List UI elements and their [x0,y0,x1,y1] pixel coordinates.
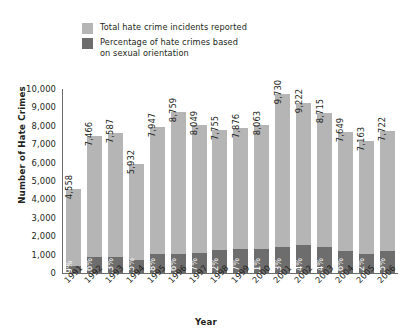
bar-group[interactable]: 7,94712.8% [150,89,165,273]
bar-group[interactable]: 7,75516.2% [212,89,227,273]
legend-label-percentage: Percentage of hate crimes based on sexua… [100,37,238,58]
x-axis-tick-cell: 2000 [253,275,268,315]
bar-value-label: 7,587 [105,119,115,143]
x-axis-tick-cell: 2003 [316,275,331,315]
bar-total-incidents[interactable]: 7,755 [212,130,227,273]
bar-value-label: 4,558 [64,175,74,199]
bar-group[interactable]: 8,75911.6% [171,89,186,273]
bar-value-label: 7,947 [147,113,157,137]
legend-label-total: Total hate crime incidents reported [100,22,247,33]
bar-total-incidents[interactable]: 8,063 [254,125,269,273]
bar-total-incidents[interactable]: 8,759 [171,112,186,273]
bar-total-incidents[interactable]: 9,730 [275,94,290,273]
bar-total-incidents[interactable]: 8,049 [192,125,207,273]
y-axis-tick: 5,000 [0,176,56,186]
bar-group[interactable]: 7,87616.7% [233,89,248,273]
bar-value-label: 9,222 [294,89,304,113]
bar-value-label: 7,876 [231,114,241,138]
chart-legend: Total hate crime incidents reported Perc… [82,22,247,58]
bar-value-label: 5,932 [126,150,136,174]
y-axis-tick-labels: 10,0009,0008,0007,0006,0005,0004,0003,00… [0,82,56,280]
x-axis-tick-cell: 1998 [211,275,226,315]
plot-area: 4,5588.9%7,46611.6%7,58711.3%5,93211.5%7… [62,89,398,274]
x-axis-tick-cell: 1991 [65,275,80,315]
bar-total-incidents[interactable]: 7,587 [108,133,123,273]
bar-group[interactable]: 7,46611.6% [87,89,102,273]
x-axis-tick-cell: 2004 [337,275,352,315]
x-axis-tick-cell: 2001 [274,275,289,315]
x-axis-tick-cell: 1997 [191,275,206,315]
y-axis-tick: 4,000 [0,194,56,204]
bar-group[interactable]: 8,06316.1% [254,89,269,273]
bar-total-incidents[interactable]: 7,649 [338,132,353,273]
bar-group[interactable]: 7,16314.2% [359,89,374,273]
y-axis-tick: 7,000 [0,139,56,149]
bar-value-label: 7,649 [335,118,345,142]
bar-group[interactable]: 8,04913.7% [192,89,207,273]
x-axis-tick-cell: 2005 [358,275,373,315]
x-axis-tick-cell: 1996 [170,275,185,315]
legend-item-total: Total hate crime incidents reported [82,22,247,34]
bar-value-label: 7,163 [356,127,366,151]
x-axis-title: Year [0,317,412,327]
bar-total-incidents[interactable]: 9,222 [296,103,311,273]
hate-crimes-bar-chart: Total hate crime incidents reported Perc… [0,0,412,333]
y-axis-tick: 9,000 [0,102,56,112]
bar-group[interactable]: 5,93211.5% [129,89,144,273]
y-axis-tick: 8,000 [0,121,56,131]
x-axis-tick-labels: 1991199219931994199519961997199819992000… [62,275,397,315]
bar-value-label: 8,759 [168,98,178,122]
x-axis-tick-cell: 2002 [295,275,310,315]
bar-group[interactable]: 7,58711.3% [108,89,123,273]
bar-total-incidents[interactable]: 7,466 [87,136,102,273]
bar-value-label: 9,730 [273,80,283,104]
y-axis-tick: 10,000 [0,84,56,94]
bar-value-label: 8,049 [189,111,199,135]
x-axis-tick-cell: 1999 [232,275,247,315]
bar-group[interactable]: 7,64915.6% [338,89,353,273]
y-axis-tick: 2,000 [0,231,56,241]
bar-group[interactable]: 4,5588.9% [66,89,81,273]
x-axis-tick-cell: 1994 [128,275,143,315]
legend-item-percentage: Percentage of hate crimes based on sexua… [82,37,247,58]
bar-value-label: 8,063 [252,110,262,134]
bar-group[interactable]: 9,73014.3% [275,89,290,273]
x-axis-tick-cell: 2006 [379,275,394,315]
bar-total-incidents[interactable]: 7,876 [233,128,248,273]
y-axis-tick: 1,000 [0,250,56,260]
y-axis-tick: 6,000 [0,158,56,168]
y-axis-tick: 3,000 [0,213,56,223]
legend-swatch-total-icon [82,23,93,34]
bar-total-incidents[interactable]: 7,722 [380,131,395,273]
x-axis-tick-cell: 1992 [86,275,101,315]
bar-group[interactable]: 8,71516.4% [317,89,332,273]
bar-value-label: 8,715 [315,98,325,122]
x-axis-tick-cell: 1995 [149,275,164,315]
bar-total-incidents[interactable]: 7,163 [359,141,374,273]
bar-group[interactable]: 9,22216.4% [296,89,311,273]
bar-value-label: 7,755 [210,116,220,140]
bar-value-label: 7,466 [84,121,94,145]
legend-swatch-percentage-icon [82,38,93,49]
bar-value-label: 7,722 [377,117,387,141]
y-axis-tick: 0 [0,268,56,278]
bar-series-container: 4,5588.9%7,46611.6%7,58711.3%5,93211.5%7… [63,89,398,273]
bar-total-incidents[interactable]: 8,715 [317,113,332,273]
x-axis-tick-cell: 1993 [107,275,122,315]
bar-group[interactable]: 7,72215.5% [380,89,395,273]
bar-total-incidents[interactable]: 7,947 [150,127,165,273]
